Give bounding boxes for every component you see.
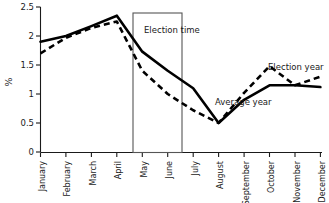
x-tick-label-june: June <box>165 161 174 180</box>
y-axis-title: % <box>3 77 14 86</box>
x-tick-labels: January February March April May June Ju… <box>38 160 327 203</box>
annotation-average-year: Average year <box>215 97 272 107</box>
x-tick-label-november: November <box>293 160 302 202</box>
annotation-election-year: Election year <box>268 62 324 72</box>
x-tick-label-august: August <box>216 161 225 189</box>
x-tick-label-february: February <box>63 161 72 197</box>
x-tick-label-september: September <box>242 160 251 203</box>
x-tick-label-december: December <box>318 160 327 202</box>
x-tick-label-april: April <box>114 161 123 179</box>
y-tick-label: 1 <box>29 89 34 99</box>
y-tick-label: 2.5 <box>20 2 34 12</box>
y-tick-label: 2 <box>29 31 34 41</box>
x-tick-label-may: May <box>140 161 149 178</box>
x-tick-label-july: July <box>191 161 200 177</box>
x-tick-marks <box>41 153 321 158</box>
y-tick-label: 0 <box>29 147 34 157</box>
y-tick-labels: 2.5 2 1.5 1 0.5 0 <box>20 2 34 157</box>
x-tick-label-january: January <box>38 161 47 193</box>
x-tick-label-march: March <box>89 161 98 185</box>
series-line-election-year <box>41 22 321 124</box>
chart-container: 2.5 2 1.5 1 0.5 0 % January Febr <box>0 0 329 203</box>
y-tick-label: 1.5 <box>20 60 34 70</box>
y-tick-marks <box>36 7 41 152</box>
y-tick-label: 0.5 <box>20 118 34 128</box>
annotation-election-time: Election time <box>144 25 200 35</box>
line-chart: 2.5 2 1.5 1 0.5 0 % January Febr <box>0 0 329 203</box>
x-tick-label-october: October <box>267 160 276 193</box>
